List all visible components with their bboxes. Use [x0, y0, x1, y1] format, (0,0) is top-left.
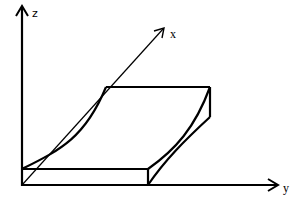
x-axis [22, 28, 164, 185]
z-axis [16, 6, 28, 186]
y-axis-label: y [283, 181, 289, 195]
z-axis-label: z [32, 7, 38, 20]
diagram-canvas: z x y [0, 0, 303, 206]
slab-right-curve [148, 87, 210, 169]
slab-right-bottom-curve [148, 117, 210, 185]
curved-slab [22, 87, 210, 185]
x-axis-label: x [170, 27, 176, 41]
slab-left-curve [22, 87, 106, 169]
